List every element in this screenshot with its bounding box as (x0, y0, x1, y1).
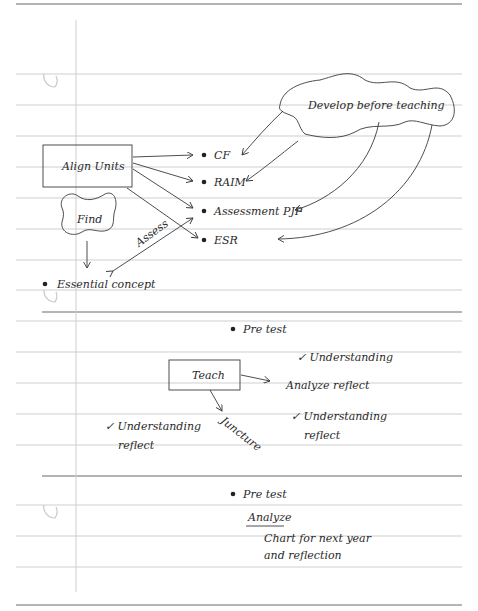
bullet-icon (231, 327, 236, 332)
essential-concept-label: Essential concept (56, 278, 156, 291)
juncture-label: Juncture (217, 413, 265, 454)
align-units-label: Align Units (61, 160, 125, 173)
arrow-to-assessment (133, 169, 193, 208)
bullet-icon (43, 282, 48, 287)
bullet-cf: CF (214, 149, 230, 162)
arrow-to-raim (133, 163, 193, 181)
arrow-cloud-to-assessment (295, 122, 379, 210)
develop-cloud-label: Develop before teaching (307, 99, 445, 112)
bullet-icon (202, 153, 207, 158)
bullet-icon (231, 492, 236, 497)
analyze-label: Analyze (247, 511, 292, 524)
notebook-page: Develop before teaching Align Units CF R… (0, 0, 478, 611)
pre-test-label: Pre test (242, 323, 287, 336)
arrow-to-cf (133, 155, 193, 157)
understanding-check-left: ✓ Understanding (105, 420, 201, 433)
ruled-lines (16, 74, 462, 567)
and-reflection-label: and reflection (264, 549, 342, 562)
arrow-cloud-to-cf (242, 111, 283, 155)
analyze-reflect-label: Analyze reflect (285, 379, 370, 392)
arrow-cloud-to-esr (278, 125, 432, 239)
arrow-teach-to-juncture (210, 390, 222, 411)
reflect-label-left: reflect (118, 439, 155, 452)
bullet-icon (202, 209, 207, 214)
punch-hole (44, 505, 57, 518)
bullet-assessment-pjp: Assessment PJP (213, 205, 303, 218)
punch-hole (44, 290, 57, 302)
teach-label: Teach (192, 369, 225, 382)
bullet-raim: RAIM (213, 176, 247, 189)
chart-next-year-label: Chart for next year (264, 532, 372, 545)
arrow-teach-to-analyze (241, 375, 270, 381)
understanding-check-2: ✓ Understanding (291, 410, 387, 423)
bullet-icon (202, 180, 207, 185)
pre-test-label-2: Pre test (242, 488, 287, 501)
arrow-cloud-to-raim (246, 141, 298, 181)
find-label: Find (76, 213, 102, 226)
reflect-label-2: reflect (304, 429, 341, 442)
bullet-esr: ESR (213, 234, 238, 247)
bullet-icon (202, 238, 207, 243)
punch-hole (44, 74, 57, 87)
understanding-check-1: ✓ Understanding (297, 351, 393, 364)
